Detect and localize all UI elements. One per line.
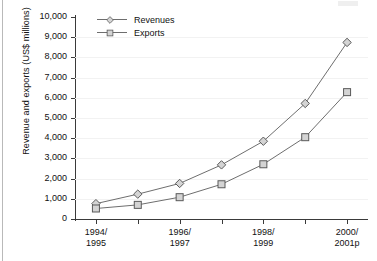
x-tick: [305, 219, 306, 224]
x-tick: [180, 219, 181, 224]
legend-label-revenues: Revenues: [134, 15, 175, 26]
y-tick-label: 4,000: [23, 133, 67, 142]
data-point-square: [344, 89, 351, 96]
series-layer: [75, 17, 368, 219]
diamond-marker-icon: [97, 14, 127, 26]
data-point-square: [92, 205, 99, 212]
x-tick-label: 1994/1995: [61, 227, 131, 249]
data-point-diamond: [175, 179, 183, 187]
x-tick-label: 1996/1997: [145, 227, 215, 249]
data-point-square: [218, 181, 225, 188]
legend-label-exports: Exports: [134, 28, 165, 39]
series-line-revenues: [96, 42, 347, 203]
plot-area: [75, 17, 368, 219]
y-tick-label: 0: [23, 214, 67, 223]
data-point-square: [302, 134, 309, 141]
data-point-square: [176, 194, 183, 201]
y-tick-label: 10,000: [23, 12, 67, 21]
x-tick: [138, 219, 139, 224]
x-tick-label: 1998/1999: [228, 227, 298, 249]
x-tick-label: 2000/2001p: [312, 227, 377, 249]
x-tick: [222, 219, 223, 224]
y-tick-label: 3,000: [23, 153, 67, 162]
y-tick-label: 8,000: [23, 52, 67, 61]
series-line-exports: [96, 92, 347, 208]
legend-item-exports: Exports: [97, 27, 175, 39]
data-point-square: [260, 161, 267, 168]
y-tick-label: 9,000: [23, 32, 67, 41]
scan-artifact: [338, 1, 358, 6]
x-tick: [96, 219, 97, 224]
chart-figure: Revenue and exports (US$ millions) 10,00…: [0, 0, 377, 261]
y-tick-label: 2,000: [23, 174, 67, 183]
data-point-diamond: [343, 38, 351, 46]
square-marker-icon: [97, 27, 127, 39]
y-tick-label: 1,000: [23, 194, 67, 203]
page-edge-rule: [2, 0, 3, 261]
y-axis-title: Revenue and exports (US$ millions): [21, 0, 31, 171]
y-tick: [71, 219, 75, 220]
y-tick-label: 7,000: [23, 73, 67, 82]
data-point-diamond: [134, 190, 142, 198]
legend-item-revenues: Revenues: [97, 14, 175, 26]
data-point-square: [134, 201, 141, 208]
chart-legend: Revenues Exports: [97, 14, 175, 40]
y-tick-label: 6,000: [23, 93, 67, 102]
data-point-diamond: [217, 161, 225, 169]
x-tick: [263, 219, 264, 224]
x-tick: [347, 219, 348, 224]
y-tick-label: 5,000: [23, 113, 67, 122]
